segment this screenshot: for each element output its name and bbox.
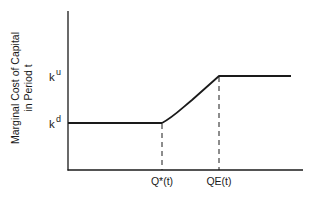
mcc-curve xyxy=(68,76,291,123)
x-tick-q-star: Q*(t) xyxy=(151,175,173,187)
ku-base: k xyxy=(49,71,55,83)
ku-superscript: u xyxy=(56,67,61,77)
ku-label: k u xyxy=(49,67,61,83)
y-axis-title-line1: Marginal Cost of Capital xyxy=(9,32,21,144)
x-tick-qe: QE(t) xyxy=(206,175,231,187)
kd-base: k xyxy=(49,118,55,130)
mcc-diagram: Marginal Cost of Capital in Period t k u… xyxy=(0,0,312,199)
kd-label: k d xyxy=(49,114,61,130)
y-axis-title: Marginal Cost of Capital in Period t xyxy=(9,32,34,144)
y-axis-title-line2: in Period t xyxy=(22,64,34,111)
kd-superscript: d xyxy=(56,114,61,124)
